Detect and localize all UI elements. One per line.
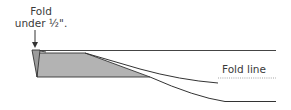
lower-curve-edge: [150, 77, 276, 102]
fold-under-line2: under ½".: [13, 17, 69, 29]
tab-edge: [40, 51, 46, 52]
folded-facing: [37, 53, 150, 77]
fold-line-label: Fold line: [222, 63, 266, 75]
fold-under-label: Fold under ½".: [13, 5, 69, 29]
pointer-arrow-head: [32, 42, 38, 48]
fold-diagram: Fold under ½". Fold line: [0, 0, 291, 110]
fold-under-line1: Fold: [13, 5, 69, 17]
